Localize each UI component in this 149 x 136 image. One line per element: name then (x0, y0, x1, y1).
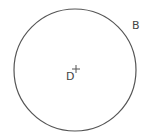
circle-label-b: B (132, 20, 140, 31)
diagram-canvas (0, 0, 149, 136)
circle-b (14, 9, 136, 131)
point-label-d: D (66, 71, 74, 82)
